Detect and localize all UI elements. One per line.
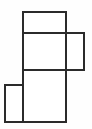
left-face [5,85,23,122]
upper-middle-face [23,33,66,70]
diagram-canvas [0,0,92,129]
right-face [66,33,84,70]
top-face [23,12,66,33]
net-diagram [0,0,92,129]
lower-middle-face [23,70,66,122]
